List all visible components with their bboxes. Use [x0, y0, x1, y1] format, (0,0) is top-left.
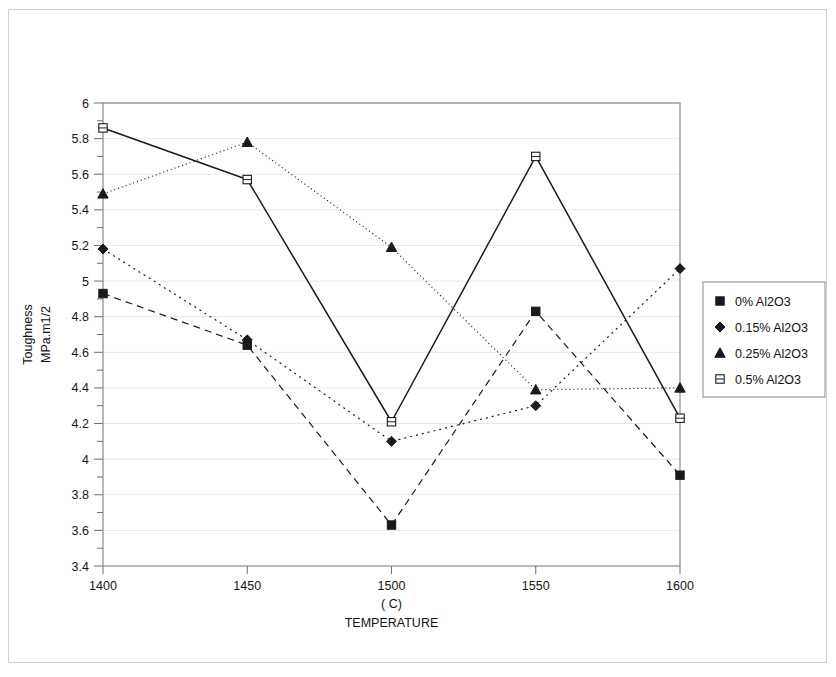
- x-axis-title: TEMPERATURE: [345, 616, 439, 630]
- series-2: [98, 244, 685, 446]
- marker-open-square: [99, 124, 107, 132]
- x-tick-label: 1600: [666, 579, 694, 593]
- marker-filled-diamond: [531, 401, 541, 411]
- marker-filled-square: [716, 297, 724, 305]
- y-tick-label: 4.6: [72, 346, 89, 360]
- y-tick-label: 6: [82, 97, 89, 111]
- marker-open-square: [676, 414, 684, 422]
- marker-filled-square: [387, 521, 395, 529]
- series-layer: [98, 124, 685, 530]
- marker-open-square: [716, 375, 724, 383]
- gridlines: [103, 103, 680, 530]
- y-tick-label: 5.8: [72, 132, 89, 146]
- legend-label: 0.25% Al2O3: [735, 347, 808, 361]
- legend-label: 0% Al2O3: [735, 295, 791, 309]
- marker-filled-square: [99, 289, 107, 297]
- series-line: [103, 294, 680, 526]
- x-tick-label: 1500: [378, 579, 406, 593]
- y-axis: 3.43.63.844.24.44.64.855.25.45.65.86: [72, 97, 103, 574]
- legend: 0% Al2O30.15% Al2O30.25% Al2O30.5% Al2O3: [703, 282, 825, 397]
- x-axis-unit-label: ( C): [381, 597, 402, 611]
- plot-frame: [103, 103, 680, 566]
- marker-filled-triangle: [98, 189, 108, 198]
- y-tick-label: 4.2: [72, 417, 89, 431]
- series-line: [103, 249, 680, 441]
- y-tick-label: 5.6: [72, 168, 89, 182]
- legend-label: 0.15% Al2O3: [735, 321, 808, 335]
- x-tick-label: 1400: [89, 579, 117, 593]
- marker-open-square: [387, 418, 395, 426]
- y-tick-label: 5.2: [72, 239, 89, 253]
- y-axis-title: Toughness: [21, 304, 35, 364]
- x-tick-label: 1450: [233, 579, 261, 593]
- x-axis: 14001450150015501600: [89, 566, 694, 593]
- y-tick-label: 3.4: [72, 560, 89, 574]
- marker-filled-diamond: [387, 436, 397, 446]
- chart-svg: 3.43.63.844.24.44.64.855.25.45.65.861400…: [0, 0, 836, 677]
- marker-filled-square: [532, 307, 540, 315]
- chart-page: 3.43.63.844.24.44.64.855.25.45.65.861400…: [0, 0, 836, 677]
- y-tick-label: 3.8: [72, 488, 89, 502]
- y-axis-unit-label: MPa.m1/2: [39, 306, 53, 363]
- series-1: [99, 289, 684, 529]
- y-tick-label: 5.4: [72, 203, 89, 217]
- y-tick-label: 4.8: [72, 310, 89, 324]
- y-tick-label: 4: [82, 453, 89, 467]
- y-tick-label: 5: [82, 275, 89, 289]
- y-tick-label: 3.6: [72, 524, 89, 538]
- marker-filled-square: [676, 471, 684, 479]
- marker-filled-triangle: [531, 385, 541, 394]
- series-3: [98, 137, 685, 394]
- marker-filled-triangle: [386, 242, 396, 251]
- y-tick-label: 4.4: [72, 381, 89, 395]
- x-tick-label: 1550: [522, 579, 550, 593]
- marker-open-square: [532, 152, 540, 160]
- marker-filled-diamond: [675, 264, 685, 274]
- legend-label: 0.5% Al2O3: [735, 373, 801, 387]
- toughness-vs-temperature-chart: 3.43.63.844.24.44.64.855.25.45.65.861400…: [0, 0, 836, 677]
- marker-open-square: [243, 175, 251, 183]
- series-line: [103, 128, 680, 422]
